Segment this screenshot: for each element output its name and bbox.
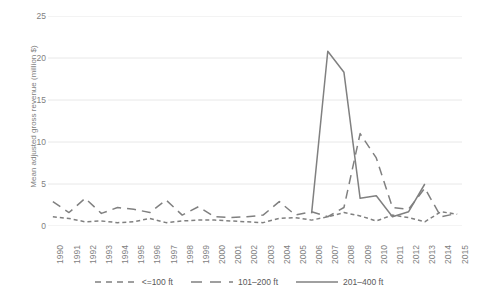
- x-axis-tick-labels: 1990199119921993199419951996199719981999…: [48, 228, 462, 272]
- x-axis-tick-label: 1999: [202, 245, 211, 264]
- x-axis-tick-label: 2015: [461, 245, 470, 264]
- series-line-2: [312, 51, 425, 216]
- x-axis-tick-label: 2014: [444, 245, 453, 264]
- x-axis-tick-label: 1993: [105, 245, 114, 264]
- series-line-1: [53, 134, 457, 218]
- line-chart: Mean adjusted gross revenue (million $) …: [0, 0, 478, 291]
- legend-label: 101–200 ft: [238, 277, 278, 287]
- x-axis-tick-label: 2009: [364, 245, 373, 264]
- x-axis-tick-label: 2013: [428, 245, 437, 264]
- x-axis-tick-label: 1991: [73, 245, 82, 264]
- x-axis-tick-label: 2007: [331, 245, 340, 264]
- y-axis-tick-label: 5: [20, 180, 46, 189]
- x-axis-tick-label: 2010: [380, 245, 389, 264]
- x-axis-tick-label: 2002: [250, 245, 259, 264]
- x-axis-tick-label: 2004: [283, 245, 292, 264]
- x-axis-tick-label: 2003: [267, 245, 276, 264]
- y-axis-tick-label: 0: [20, 222, 46, 231]
- chart-legend: <=100 ft 101–200 ft 201–400 ft: [0, 272, 478, 291]
- x-axis-tick-label: 2000: [218, 245, 227, 264]
- y-axis-tick-label: 15: [20, 96, 46, 105]
- x-axis-tick-label: 1995: [137, 245, 146, 264]
- legend-item-1: 101–200 ft: [191, 277, 278, 287]
- plot-svg: [48, 16, 462, 226]
- legend-label: <=100 ft: [142, 277, 173, 287]
- x-axis-tick-label: 1992: [89, 245, 98, 264]
- series-line-0: [53, 212, 457, 223]
- x-axis-tick-label: 2006: [315, 245, 324, 264]
- x-axis-tick-label: 2011: [396, 246, 405, 264]
- y-axis-tick-label: 20: [20, 54, 46, 63]
- legend-swatch-long-dash: [191, 279, 233, 285]
- x-axis-tick-label: 1997: [170, 245, 179, 264]
- x-axis-tick-label: 2001: [234, 245, 243, 264]
- gridlines: [48, 16, 462, 226]
- x-axis-tick-label: 1990: [56, 245, 65, 264]
- y-axis-tick-label: 10: [20, 138, 46, 147]
- x-axis-tick-label: 1996: [153, 245, 162, 264]
- x-axis-tick-label: 2012: [412, 245, 421, 264]
- legend-label: 201–400 ft: [343, 277, 383, 287]
- legend-swatch-short-dash: [95, 279, 137, 285]
- x-axis-tick-label: 2008: [347, 245, 356, 264]
- legend-swatch-solid: [296, 279, 338, 285]
- legend-item-2: 201–400 ft: [296, 277, 383, 287]
- legend-item-0: <=100 ft: [95, 277, 173, 287]
- x-axis-tick-label: 1994: [121, 245, 130, 264]
- plot-area: [48, 16, 462, 226]
- x-axis-tick-label: 2005: [299, 245, 308, 264]
- y-axis-tick-labels: 25 20 15 10 5 0: [16, 0, 46, 291]
- y-axis-tick-label: 25: [20, 12, 46, 21]
- series-lines: [53, 51, 457, 222]
- x-axis-tick-label: 1998: [186, 245, 195, 264]
